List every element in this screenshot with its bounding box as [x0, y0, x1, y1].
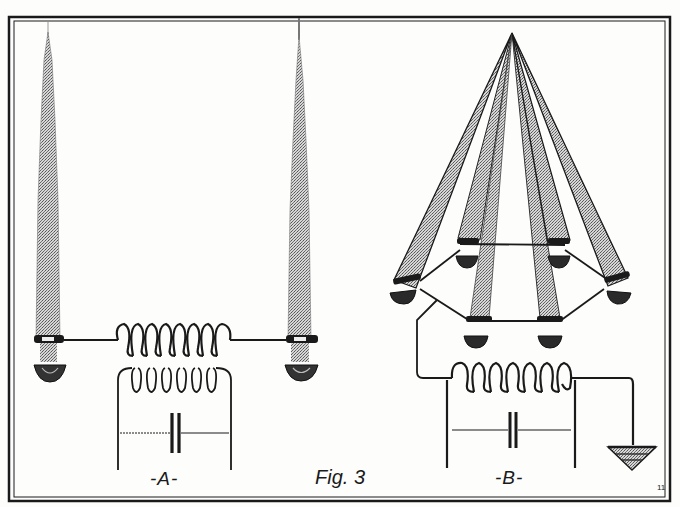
- primary-coil-a: [64, 324, 286, 356]
- diagram-canvas: [0, 0, 680, 507]
- ring-wires-b: [417, 244, 608, 378]
- antenna-rod-left: [36, 22, 60, 362]
- capacitor-a: [172, 413, 179, 453]
- panel-a: [34, 18, 318, 470]
- corner-mark: 11: [657, 483, 665, 492]
- capacitor-b: [510, 412, 516, 448]
- panel-b-label: -B-: [495, 467, 523, 489]
- coil-b: [447, 363, 633, 468]
- frame-border: [9, 17, 670, 501]
- figure-caption: Fig. 3: [315, 466, 365, 489]
- figure-stage: -A- Fig. 3 -B- 11: [0, 0, 680, 507]
- secondary-circuit-a: [118, 368, 231, 470]
- panel-a-label: -A-: [150, 468, 178, 490]
- ground-icon: [608, 447, 656, 470]
- panel-b: [390, 33, 656, 470]
- antenna-rod-right: [288, 18, 311, 362]
